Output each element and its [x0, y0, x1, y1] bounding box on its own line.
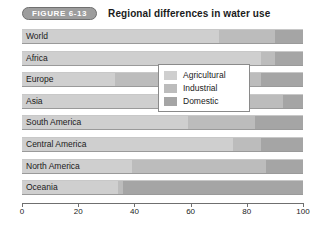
- bar-segment-domestic: [261, 73, 303, 86]
- chart-legend: AgriculturalIndustrialDomestic: [158, 64, 250, 112]
- x-axis-tick-label: 40: [130, 207, 139, 216]
- bar-segment-industrial: [188, 116, 255, 129]
- legend-item-list: AgriculturalIndustrialDomestic: [164, 69, 244, 107]
- x-axis-line: [22, 203, 304, 204]
- legend-label: Industrial: [183, 83, 218, 93]
- bar-segment-domestic: [275, 52, 303, 65]
- legend-label: Agricultural: [183, 70, 226, 80]
- bar-segment-domestic: [266, 160, 303, 173]
- legend-label: Domestic: [183, 96, 218, 106]
- row-label: Asia: [26, 94, 43, 109]
- figure-container: FIGURE 6-13 Regional differences in wate…: [0, 0, 324, 238]
- row-label: Central America: [26, 137, 86, 152]
- legend-swatch-domestic: [164, 97, 177, 106]
- chart-row: World: [22, 29, 303, 44]
- bar-segment-agricultural: [22, 30, 219, 43]
- row-label: World: [26, 29, 48, 44]
- chart-row: Central America: [22, 137, 303, 152]
- bar-segment-industrial: [132, 160, 267, 173]
- x-axis-tick-label: 60: [186, 207, 195, 216]
- bar-segment-domestic: [275, 30, 303, 43]
- row-label: Europe: [26, 72, 53, 87]
- chart-plot-area: WorldAfricaEuropeAsiaSouth AmericaCentra…: [22, 29, 303, 203]
- x-axis-tick-label: 100: [296, 207, 309, 216]
- legend-item: Domestic: [164, 95, 244, 107]
- legend-item: Agricultural: [164, 69, 244, 81]
- chart-row: South America: [22, 115, 303, 130]
- figure-title: Regional differences in water use: [108, 8, 270, 19]
- row-label: South America: [26, 115, 81, 130]
- bar-segment-domestic: [255, 116, 303, 129]
- legend-swatch-industrial: [164, 84, 177, 93]
- bar-segment-industrial: [233, 138, 261, 151]
- stacked-bar: [22, 29, 303, 44]
- stacked-bar: [22, 180, 303, 195]
- row-label: North America: [26, 159, 80, 174]
- row-label: Africa: [26, 51, 48, 66]
- figure-header: FIGURE 6-13 Regional differences in wate…: [0, 0, 324, 26]
- bar-segment-industrial: [219, 30, 275, 43]
- bar-segment-agricultural: [22, 52, 261, 65]
- legend-item: Industrial: [164, 82, 244, 94]
- bar-segment-domestic: [123, 181, 303, 194]
- bar-segment-industrial: [261, 52, 275, 65]
- row-label: Oceania: [26, 180, 58, 195]
- bar-segment-domestic: [261, 138, 303, 151]
- x-axis-tick-label: 20: [74, 207, 83, 216]
- bar-segment-domestic: [283, 95, 303, 108]
- legend-swatch-agricultural: [164, 71, 177, 80]
- x-axis-tick-label: 0: [20, 207, 24, 216]
- figure-number-badge: FIGURE 6-13: [22, 7, 97, 20]
- bar-segment-industrial: [250, 95, 284, 108]
- chart-row: North America: [22, 159, 303, 174]
- x-axis-tick-label: 80: [242, 207, 251, 216]
- chart-row: Oceania: [22, 180, 303, 195]
